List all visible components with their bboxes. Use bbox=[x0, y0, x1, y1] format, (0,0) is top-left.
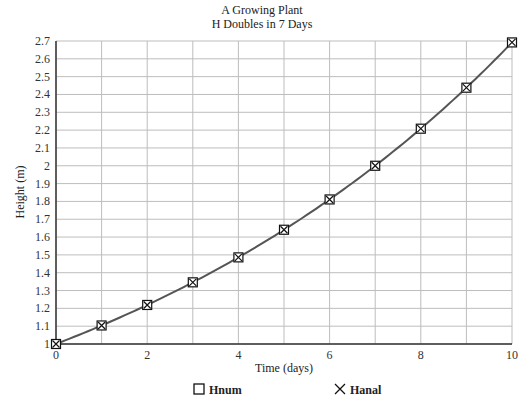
x-axis-ticks: 0246810 bbox=[53, 348, 518, 362]
x-tick-label: 10 bbox=[506, 348, 518, 362]
y-tick-label: 1 bbox=[44, 337, 50, 351]
y-tick-label: 2.5 bbox=[35, 70, 50, 84]
y-tick-label: 1.1 bbox=[35, 319, 50, 333]
x-tick-label: 2 bbox=[144, 348, 150, 362]
y-tick-label: 1.5 bbox=[35, 248, 50, 262]
x-tick-label: 4 bbox=[235, 348, 241, 362]
y-tick-label: 2.2 bbox=[35, 123, 50, 137]
y-tick-label: 1.9 bbox=[35, 177, 50, 191]
legend: Hnum Hanal bbox=[194, 383, 382, 397]
x-marker-icon bbox=[335, 384, 345, 394]
y-tick-label: 2.3 bbox=[35, 105, 50, 119]
chart: A Growing Plant H Doubles in 7 Days 11.1… bbox=[0, 0, 530, 408]
y-tick-label: 1.6 bbox=[35, 230, 50, 244]
y-tick-label: 2.7 bbox=[35, 34, 50, 48]
line-chart-svg: A Growing Plant H Doubles in 7 Days 11.1… bbox=[0, 0, 530, 408]
chart-subtitle: H Doubles in 7 Days bbox=[212, 17, 313, 31]
y-tick-label: 2 bbox=[44, 159, 50, 173]
grid bbox=[56, 41, 512, 344]
y-tick-label: 2.1 bbox=[35, 141, 50, 155]
x-tick-label: 6 bbox=[327, 348, 333, 362]
y-tick-label: 1.2 bbox=[35, 301, 50, 315]
legend-item-hnum: Hnum bbox=[194, 383, 242, 397]
y-tick-label: 1.4 bbox=[35, 266, 50, 280]
x-axis-label: Time (days) bbox=[255, 361, 313, 375]
x-tick-label: 0 bbox=[53, 348, 59, 362]
legend-label-hnum: Hnum bbox=[209, 383, 242, 397]
y-axis-label: Height (m) bbox=[13, 166, 27, 219]
y-tick-label: 2.4 bbox=[35, 87, 50, 101]
square-marker-icon bbox=[194, 384, 204, 394]
legend-item-hanal: Hanal bbox=[335, 383, 382, 397]
y-axis-ticks: 11.11.21.31.41.51.61.71.81.922.12.22.32.… bbox=[35, 34, 50, 351]
chart-title: A Growing Plant bbox=[221, 3, 303, 17]
y-tick-label: 2.6 bbox=[35, 52, 50, 66]
x-tick-label: 8 bbox=[418, 348, 424, 362]
legend-label-hanal: Hanal bbox=[350, 383, 382, 397]
y-tick-label: 1.8 bbox=[35, 194, 50, 208]
y-tick-label: 1.3 bbox=[35, 284, 50, 298]
y-tick-label: 1.7 bbox=[35, 212, 50, 226]
